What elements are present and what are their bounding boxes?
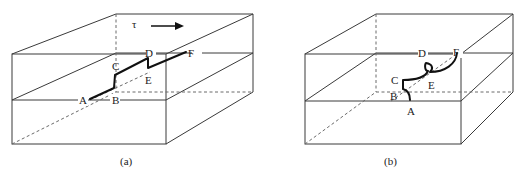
- top-right-edge-b: [461, 14, 513, 54]
- slip-plane-right-b: [461, 53, 513, 101]
- point-label-E: E: [145, 74, 152, 86]
- point-label-D: D: [145, 47, 153, 59]
- point-label-B: B: [390, 90, 397, 102]
- figure-canvas: τ A B C D E F (a): [0, 0, 519, 178]
- point-label-D: D: [418, 47, 426, 59]
- panel-b: A B C D E F (b): [305, 14, 513, 168]
- dislocation-curve-b: [403, 53, 457, 100]
- panel-a: τ A B C D E F (a): [12, 14, 253, 168]
- point-label-E: E: [428, 79, 435, 91]
- bottom-right-edge-b: [461, 92, 513, 144]
- dislocation-figure: τ A B C D E F (a): [0, 0, 519, 178]
- point-label-F: F: [453, 46, 459, 58]
- point-label-C: C: [112, 60, 119, 72]
- top-right-edge-a: [166, 14, 253, 54]
- point-label-A: A: [79, 94, 87, 106]
- point-label-A: A: [407, 105, 415, 117]
- point-label-F: F: [188, 47, 194, 59]
- caption-a: (a): [120, 155, 133, 168]
- slip-plane-left-b: [305, 53, 376, 101]
- point-label-C: C: [391, 74, 398, 86]
- stress-symbol: τ: [132, 18, 137, 30]
- hidden-slip-diagonal-b: [391, 53, 458, 101]
- slip-plane-left-a: [12, 53, 116, 100]
- top-left-edge-a: [12, 14, 116, 54]
- arrow-right-icon: [175, 22, 184, 30]
- point-label-B: B: [112, 94, 119, 106]
- hidden-bottom-left-b: [305, 92, 376, 144]
- caption-b: (b): [384, 155, 397, 168]
- bottom-right-edge-a: [166, 92, 253, 144]
- top-left-edge-b: [305, 14, 376, 54]
- slip-plane-right-a: [166, 53, 253, 100]
